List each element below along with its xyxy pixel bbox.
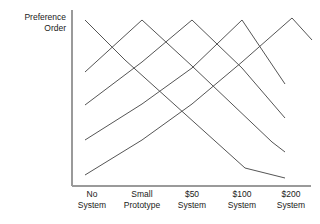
figure-canvas: Preference Order No SystemSmall Prototyp… xyxy=(0,0,320,224)
preference-curves xyxy=(85,18,312,178)
x-tick-label-2: $50 System xyxy=(178,189,206,210)
x-tick-label-1: Small Prototype xyxy=(124,189,160,210)
x-tick-label-0: No System xyxy=(78,189,106,210)
x-axis-tick-labels: No SystemSmall Prototype$50 System$100 S… xyxy=(0,189,320,221)
axis-lines xyxy=(72,10,311,186)
x-tick-label-4: $200 System xyxy=(277,189,305,210)
curve-peak-no-system xyxy=(85,20,285,178)
curve-peak-50-system xyxy=(85,20,285,118)
x-tick-label-3: $100 System xyxy=(228,189,256,210)
curve-peak-100-system xyxy=(85,20,285,140)
